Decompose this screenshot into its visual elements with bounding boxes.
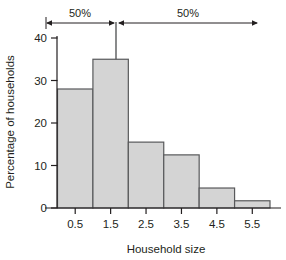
- half-annotation-group: 50% 50%: [46, 7, 258, 29]
- histogram-bar: [235, 201, 270, 208]
- x-tick-label: 5.5: [244, 218, 260, 230]
- x-tick-label: 3.5: [173, 218, 189, 230]
- right-half-arrow-head-left: [118, 20, 124, 25]
- x-axis-title: Household size: [127, 243, 206, 255]
- right-half-arrow-head-right: [252, 20, 258, 25]
- x-axis-ticks: 0.51.52.53.54.55.5: [67, 208, 260, 230]
- y-axis-title: Percentage of households: [4, 55, 16, 189]
- y-tick-label: 20: [34, 117, 47, 129]
- x-tick-label: 2.5: [138, 218, 154, 230]
- histogram-bar: [164, 155, 199, 208]
- right-half-label: 50%: [177, 7, 199, 19]
- x-tick-label: 4.5: [209, 218, 225, 230]
- left-half-label: 50%: [69, 7, 91, 19]
- y-tick-label: 30: [34, 75, 47, 87]
- left-half-arrow-head-left: [46, 20, 52, 25]
- y-tick-label: 0: [41, 202, 47, 214]
- bars-group: [58, 59, 271, 208]
- histogram-bar: [58, 89, 93, 208]
- x-tick-label: 0.5: [67, 218, 83, 230]
- y-tick-label: 40: [34, 32, 47, 44]
- x-tick-label: 1.5: [103, 218, 119, 230]
- histogram-bar: [93, 59, 128, 208]
- histogram-figure: 50% 50% 010203040 0.51.52.53.54.55.5 Hou…: [0, 0, 286, 260]
- y-axis-ticks: 010203040: [34, 32, 57, 214]
- chart-canvas: 50% 50% 010203040 0.51.52.53.54.55.5 Hou…: [0, 0, 286, 260]
- y-tick-label: 10: [34, 160, 47, 172]
- histogram-bar: [199, 188, 234, 208]
- left-half-arrow-head-right: [109, 20, 115, 25]
- histogram-bar: [128, 142, 163, 208]
